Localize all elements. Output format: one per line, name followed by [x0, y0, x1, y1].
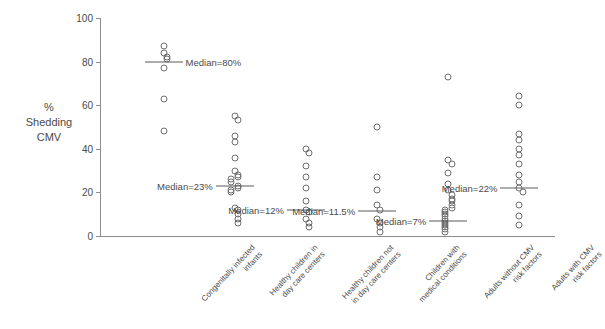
data-point	[448, 204, 455, 211]
y-axis-tick-label: 80	[82, 56, 93, 67]
data-point	[231, 154, 238, 161]
y-axis-tick-mark	[96, 18, 100, 19]
y-axis-title-line-3: CMV	[18, 130, 80, 145]
median-line	[429, 220, 467, 221]
x-axis-category-label: Adults without CMVrisk factors	[482, 243, 544, 308]
data-point	[235, 117, 242, 124]
median-line	[145, 61, 183, 62]
median-line	[216, 185, 254, 186]
x-axis-category-label: Healthy children inday care centers	[268, 243, 328, 305]
data-point	[516, 152, 523, 159]
y-axis-tick-label: 60	[82, 100, 93, 111]
data-point	[377, 228, 384, 235]
y-axis-title: % Shedding CMV	[18, 100, 80, 145]
y-axis-tick-mark	[96, 62, 100, 63]
x-axis-category-label: Adults with CMVrisk factors	[550, 243, 605, 300]
data-point	[516, 161, 523, 168]
median-label: Median=23%	[157, 180, 213, 191]
y-axis-tick-label: 40	[82, 143, 93, 154]
y-axis-title-line-1: %	[18, 100, 80, 115]
y-axis-tick-label: 0	[87, 231, 93, 242]
data-point	[231, 139, 238, 146]
y-axis-tick-label: 100	[76, 13, 93, 24]
data-point	[445, 73, 452, 80]
data-point	[306, 224, 313, 231]
median-line	[358, 210, 396, 211]
data-point	[516, 93, 523, 100]
y-axis-tick-mark	[96, 236, 100, 237]
data-point	[374, 187, 381, 194]
data-point	[160, 128, 167, 135]
y-axis-title-line-2: Shedding	[18, 115, 80, 130]
data-point	[374, 124, 381, 131]
data-point	[445, 169, 452, 176]
data-point	[302, 174, 309, 181]
data-point	[516, 222, 523, 229]
median-label: Median=80%	[186, 56, 242, 67]
data-point	[235, 174, 242, 181]
data-point	[228, 189, 235, 196]
median-label: Median=7%	[376, 215, 426, 226]
x-axis-category-label: Children withmedical conditions	[410, 243, 470, 305]
data-point	[160, 95, 167, 102]
y-axis-tick-label: 20	[82, 187, 93, 198]
data-point	[516, 202, 523, 209]
data-point	[448, 161, 455, 168]
data-point	[306, 150, 313, 157]
y-axis-tick-mark	[96, 105, 100, 106]
data-point	[441, 228, 448, 235]
data-point	[374, 174, 381, 181]
data-point	[302, 163, 309, 170]
median-label: Median=11.5%	[292, 205, 355, 216]
data-point	[302, 185, 309, 192]
data-point	[235, 219, 242, 226]
x-axis-line	[100, 236, 555, 237]
y-axis-tick-mark	[96, 192, 100, 193]
y-axis-line	[100, 18, 101, 236]
x-axis-category-label: Healthy children notin day care centers	[340, 243, 403, 308]
data-point	[160, 65, 167, 72]
data-point	[519, 189, 526, 196]
data-point	[516, 213, 523, 220]
y-axis-tick-mark	[96, 149, 100, 150]
plot-area: 020406080100 Median=80%Median=23%Median=…	[100, 18, 555, 236]
median-label: Median=22%	[442, 183, 498, 194]
median-line	[500, 188, 538, 189]
data-point	[516, 137, 523, 144]
median-label: Median=12%	[228, 204, 284, 215]
data-point	[302, 198, 309, 205]
x-axis-category-label: Congenitally infectedinfants	[199, 243, 264, 311]
data-point	[516, 102, 523, 109]
